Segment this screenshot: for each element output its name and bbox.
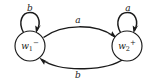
arc-bottom-label: b <box>75 70 81 80</box>
fsa-canvas: a b b a w1− <box>0 0 154 82</box>
state-w1-label-superscript: − <box>33 39 39 47</box>
state-node-w2[interactable]: w2+ <box>112 31 142 61</box>
loop-w1-label: b <box>27 3 33 13</box>
edge-self-loop-w1: b <box>21 3 41 34</box>
state-w2-label-superscript: + <box>130 39 136 47</box>
edge-arc-bottom: b <box>39 58 124 80</box>
arc-top-path <box>44 27 115 38</box>
state-node-w1[interactable]: w1− <box>15 31 45 61</box>
edge-arc-top: a <box>44 15 117 39</box>
loop-w2-label: a <box>125 3 130 13</box>
arc-top-label: a <box>75 15 80 25</box>
state-diagram: a b b a w1− <box>0 0 154 82</box>
arc-bottom-path <box>42 59 125 69</box>
edge-self-loop-w2: a <box>118 3 139 34</box>
